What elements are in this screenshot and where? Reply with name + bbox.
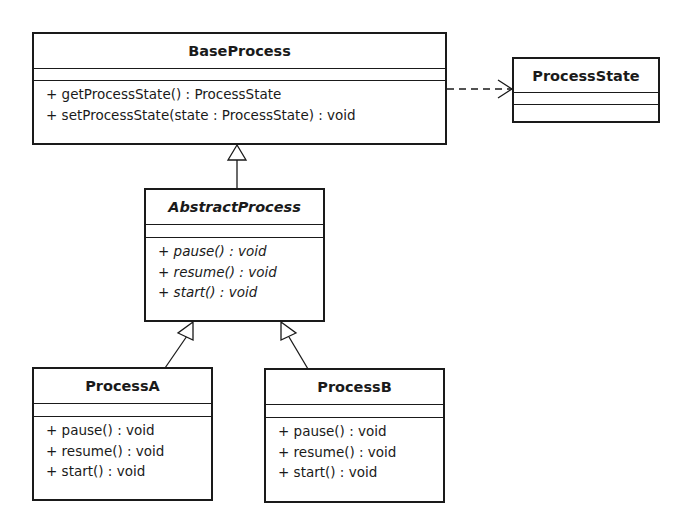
operation: + pause() : void bbox=[278, 421, 443, 442]
operation: + pause() : void bbox=[46, 420, 211, 441]
operations-compartment: + pause() : void + resume() : void + sta… bbox=[146, 238, 323, 303]
operation: + getProcessState() : ProcessState bbox=[46, 84, 445, 105]
class-name: BaseProcess bbox=[34, 34, 445, 69]
attributes-compartment bbox=[266, 405, 443, 418]
generalization-arrow-b-to-abstract bbox=[281, 322, 308, 369]
class-abstract-process[interactable]: AbstractProcess + pause() : void + resum… bbox=[144, 188, 325, 322]
attributes-compartment bbox=[34, 69, 445, 81]
attributes-compartment bbox=[514, 93, 658, 105]
operations-compartment: + pause() : void + resume() : void + sta… bbox=[34, 417, 211, 482]
operation: + start() : void bbox=[46, 461, 211, 482]
class-name: ProcessB bbox=[266, 370, 443, 405]
dependency-arrow bbox=[447, 80, 512, 98]
generalization-arrow-abstract-to-base bbox=[228, 145, 246, 189]
operation: + resume() : void bbox=[278, 442, 443, 463]
operation: + start() : void bbox=[158, 282, 323, 303]
attributes-compartment bbox=[34, 404, 211, 417]
class-process-state[interactable]: ProcessState bbox=[512, 57, 660, 123]
generalization-arrow-a-to-abstract bbox=[165, 322, 193, 368]
class-base-process[interactable]: BaseProcess + getProcessState() : Proces… bbox=[32, 32, 447, 145]
operation: + resume() : void bbox=[158, 262, 323, 283]
operation: + start() : void bbox=[278, 462, 443, 483]
operations-compartment: + getProcessState() : ProcessState + set… bbox=[34, 81, 445, 125]
operations-compartment: + pause() : void + resume() : void + sta… bbox=[266, 418, 443, 483]
operation: + setProcessState(state : ProcessState) … bbox=[46, 105, 445, 126]
operation: + pause() : void bbox=[158, 241, 323, 262]
operation: + resume() : void bbox=[46, 441, 211, 462]
attributes-compartment bbox=[146, 225, 323, 238]
class-name: ProcessA bbox=[34, 369, 211, 404]
class-process-a[interactable]: ProcessA + pause() : void + resume() : v… bbox=[32, 367, 213, 501]
class-name: AbstractProcess bbox=[146, 190, 323, 225]
class-process-b[interactable]: ProcessB + pause() : void + resume() : v… bbox=[264, 368, 445, 503]
class-name: ProcessState bbox=[514, 59, 658, 93]
